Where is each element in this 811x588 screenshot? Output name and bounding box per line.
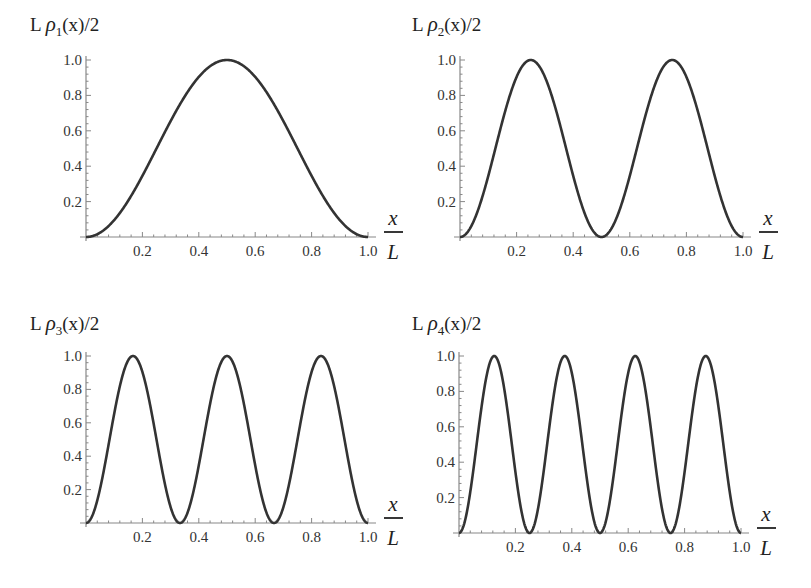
chart-figure: 0.20.40.60.81.00.20.40.60.81.0L ρ1(x)/2x… bbox=[0, 0, 811, 588]
x-tick-label: 1.0 bbox=[734, 243, 753, 259]
x-label-numerator: x bbox=[387, 492, 398, 516]
panel-title: L ρ4(x)/2 bbox=[412, 311, 481, 338]
x-tick-label: 0.2 bbox=[133, 529, 152, 545]
plot-panel-3: 0.20.40.60.81.00.20.40.60.81.0L ρ3(x)/2x… bbox=[30, 311, 403, 550]
panel-title: L ρ3(x)/2 bbox=[30, 311, 99, 338]
y-tick-label: 0.4 bbox=[63, 448, 82, 464]
y-tick-label: 0.6 bbox=[63, 415, 82, 431]
y-tick-label: 0.6 bbox=[436, 419, 455, 435]
panel-title: L ρ1(x)/2 bbox=[30, 12, 99, 39]
y-tick-label: 1.0 bbox=[436, 348, 455, 364]
y-tick-label: 0.4 bbox=[63, 158, 82, 174]
y-tick-label: 0.6 bbox=[437, 123, 456, 139]
x-tick-label: 0.6 bbox=[619, 539, 638, 555]
y-tick-label: 0.8 bbox=[63, 87, 82, 103]
x-label-denominator: L bbox=[386, 240, 399, 264]
x-tick-label: 0.4 bbox=[189, 529, 208, 545]
x-tick-label: 0.8 bbox=[302, 529, 321, 545]
y-tick-label: 1.0 bbox=[63, 348, 82, 364]
x-label-denominator: L bbox=[761, 240, 774, 264]
plot-panel-1: 0.20.40.60.81.00.20.40.60.81.0L ρ1(x)/2x… bbox=[30, 12, 403, 264]
x-tick-label: 0.2 bbox=[507, 243, 526, 259]
y-tick-label: 0.2 bbox=[63, 482, 82, 498]
y-tick-label: 0.8 bbox=[437, 87, 456, 103]
x-label-numerator: x bbox=[760, 502, 771, 526]
panel-title: L ρ2(x)/2 bbox=[412, 12, 481, 39]
x-tick-label: 1.0 bbox=[359, 529, 378, 545]
x-label-denominator: L bbox=[386, 526, 399, 550]
x-tick-label: 0.4 bbox=[564, 243, 583, 259]
y-tick-label: 1.0 bbox=[63, 52, 82, 68]
y-tick-label: 0.2 bbox=[437, 194, 456, 210]
x-tick-label: 0.8 bbox=[677, 243, 696, 259]
y-tick-label: 0.4 bbox=[436, 454, 455, 470]
x-tick-label: 1.0 bbox=[732, 539, 751, 555]
x-tick-label: 0.8 bbox=[675, 539, 694, 555]
y-tick-label: 1.0 bbox=[437, 52, 456, 68]
density-curve bbox=[459, 356, 741, 533]
plot-panel-2: 0.20.40.60.81.00.20.40.60.81.0L ρ2(x)/2x… bbox=[412, 12, 778, 264]
density-curve bbox=[460, 60, 743, 237]
density-curve bbox=[86, 356, 368, 523]
x-label-denominator: L bbox=[759, 536, 772, 560]
y-tick-label: 0.2 bbox=[63, 194, 82, 210]
y-tick-label: 0.6 bbox=[63, 123, 82, 139]
x-tick-label: 0.2 bbox=[133, 243, 152, 259]
x-tick-label: 1.0 bbox=[359, 243, 378, 259]
y-tick-label: 0.8 bbox=[436, 383, 455, 399]
x-tick-label: 0.4 bbox=[189, 243, 208, 259]
y-tick-label: 0.8 bbox=[63, 381, 82, 397]
x-tick-label: 0.6 bbox=[246, 243, 265, 259]
x-tick-label: 0.8 bbox=[302, 243, 321, 259]
x-tick-label: 0.6 bbox=[620, 243, 639, 259]
x-label-numerator: x bbox=[762, 206, 773, 230]
density-curve bbox=[86, 60, 368, 237]
x-label-numerator: x bbox=[387, 206, 398, 230]
y-tick-label: 0.2 bbox=[436, 490, 455, 506]
x-tick-label: 0.2 bbox=[506, 539, 525, 555]
y-tick-label: 0.4 bbox=[437, 158, 456, 174]
x-tick-label: 0.6 bbox=[246, 529, 265, 545]
plot-panel-4: 0.20.40.60.81.00.20.40.60.81.0L ρ4(x)/2x… bbox=[412, 311, 776, 560]
x-tick-label: 0.4 bbox=[562, 539, 581, 555]
